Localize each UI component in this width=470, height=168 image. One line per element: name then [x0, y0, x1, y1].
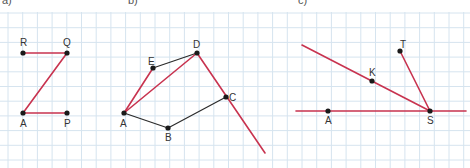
part-labels: a)b)c): [2, 0, 307, 6]
point-label-A: A: [20, 118, 27, 129]
point-label-A: A: [325, 115, 332, 126]
point-D: [194, 50, 199, 55]
part-label: b): [128, 0, 138, 6]
grid-lines: [0, 12, 470, 168]
point-label-E: E: [148, 56, 155, 67]
point-B: [165, 125, 170, 130]
segment-AE: [124, 68, 153, 113]
point-S: [427, 108, 432, 113]
part-label: a): [2, 0, 12, 6]
ray: [197, 53, 265, 153]
point-label-K: K: [369, 67, 376, 78]
segment-AD: [124, 53, 197, 113]
point-A: [325, 108, 330, 113]
point-label-B: B: [165, 132, 172, 143]
point-A: [121, 110, 126, 115]
point-Q: [64, 50, 69, 55]
figure-a: RQAP: [20, 37, 71, 129]
point-R: [20, 50, 25, 55]
segment-QA: [23, 53, 67, 113]
point-K: [369, 78, 374, 83]
point-P: [64, 110, 69, 115]
point-label-R: R: [20, 37, 27, 48]
point-A: [20, 110, 25, 115]
point-label-A: A: [120, 118, 127, 129]
segment-AB: [124, 113, 168, 128]
geometry-diagram: a)b)c) RQAPEDCABTKAS: [0, 0, 470, 168]
point-label-D: D: [193, 39, 200, 50]
point-label-S: S: [427, 115, 434, 126]
part-label: c): [298, 0, 307, 6]
segment-ED: [153, 53, 197, 68]
figure-c: TKAS: [296, 39, 466, 126]
point-C: [223, 94, 228, 99]
point-label-C: C: [229, 92, 236, 103]
point-label-P: P: [64, 118, 71, 129]
point-label-T: T: [400, 39, 406, 50]
point-label-Q: Q: [63, 37, 71, 48]
